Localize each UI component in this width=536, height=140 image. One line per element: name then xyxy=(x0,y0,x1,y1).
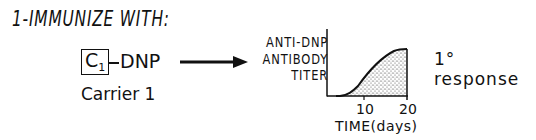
x-axis-label: TIME(days) xyxy=(335,118,418,134)
y-axis-label-line-3: TITER xyxy=(262,67,328,84)
response-label: 1° response xyxy=(434,49,536,89)
y-axis-label-line-2: ANTIBODY xyxy=(262,51,328,68)
x-tick-label-20: 20 xyxy=(399,101,417,117)
right-arrow-icon xyxy=(180,56,248,68)
y-axis-label: ANTI-DNP ANTIBODY TITER xyxy=(262,34,328,84)
stippled-area xyxy=(348,49,407,96)
x-tick-label-10: 10 xyxy=(356,101,374,117)
response-chart xyxy=(327,29,408,100)
y-axis-label-line-1: ANTI-DNP xyxy=(262,34,328,51)
